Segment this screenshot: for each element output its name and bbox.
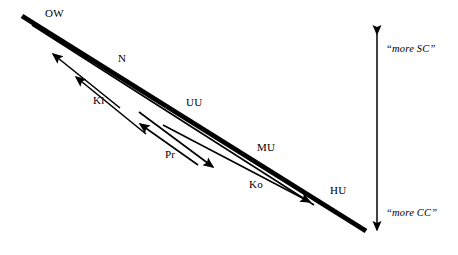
node-label-ow: OW: [45, 8, 64, 19]
node-label-n: N: [118, 53, 126, 64]
diagram-canvas: OW N Kl UU Pr MU Ko HU “more SC” “more C…: [0, 0, 458, 255]
node-label-kl: Kl: [93, 95, 104, 106]
scale-label-more-sc: “more SC”: [386, 44, 436, 55]
thick-diagonal-axis: [22, 16, 366, 231]
scale-label-more-cc: “more CC”: [386, 208, 437, 219]
node-label-uu: UU: [186, 97, 202, 108]
node-label-mu: MU: [257, 142, 275, 153]
arrow-pr-downright: [139, 112, 213, 167]
node-label-hu: HU: [330, 185, 346, 196]
node-label-ko: Ko: [249, 179, 263, 190]
arrow-kl-upleft: [53, 54, 120, 108]
arrow-ko-downright: [163, 125, 310, 202]
thin-parallel-axis: [32, 25, 314, 205]
node-label-pr: Pr: [165, 149, 175, 160]
